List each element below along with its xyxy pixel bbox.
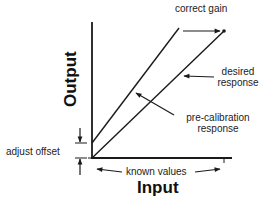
pre-calibration-label-line1: pre-calibration [178, 112, 258, 123]
adjust-offset-label: adjust offset [6, 146, 60, 157]
desired-response-label-line1: desired [215, 66, 261, 77]
desired-response-label-line2: response [215, 77, 261, 88]
known-values-arrow-right [195, 169, 220, 172]
known-values-arrow-left [97, 169, 122, 172]
pre-calibration-label: pre-calibration response [178, 112, 258, 134]
desired-response-label: desired response [215, 66, 261, 88]
desired-endpoint-dot [222, 29, 226, 33]
y-axis-title: Output [61, 51, 81, 107]
known-values-label: known values [126, 166, 187, 177]
desired-response-line [92, 31, 224, 158]
x-axis-title: Input [137, 178, 179, 198]
pre-calibration-pointer-arrow [136, 93, 174, 115]
desired-response-pointer-arrow [184, 76, 214, 77]
pre-calibration-line [92, 28, 179, 143]
pre-calibration-label-line2: response [178, 123, 258, 134]
correct-gain-label: correct gain [175, 3, 227, 14]
